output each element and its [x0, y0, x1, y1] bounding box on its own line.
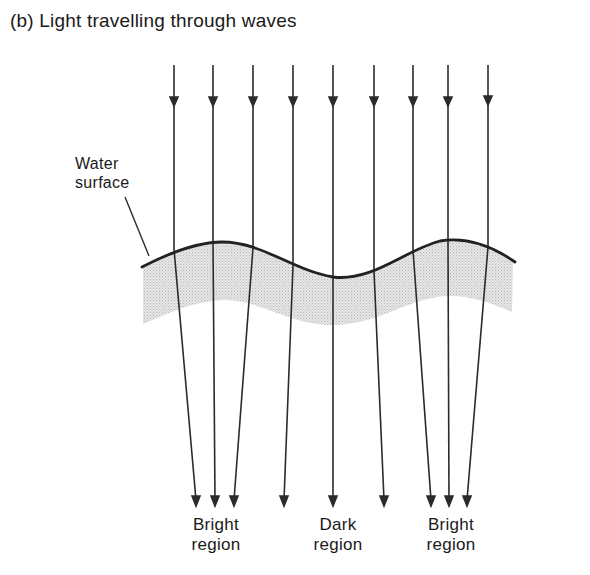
region-label-line1: Bright	[176, 515, 256, 535]
region-label-line1: Dark	[298, 515, 378, 535]
region-label-line2: region	[298, 535, 378, 555]
region-label-line2: region	[176, 535, 256, 555]
region-label-line2: region	[411, 535, 491, 555]
water-surface-label-line1: Water	[75, 154, 130, 173]
bright-region-label-left: Bright region	[176, 515, 256, 555]
water-surface-label-line2: surface	[75, 173, 130, 192]
region-label-line1: Bright	[411, 515, 491, 535]
light-refraction-diagram	[0, 0, 590, 575]
dark-region-label: Dark region	[298, 515, 378, 555]
surface-label-leader	[125, 197, 149, 256]
water-layer-shading	[143, 240, 513, 325]
water-surface-label: Water surface	[75, 154, 130, 192]
bright-region-label-right: Bright region	[411, 515, 491, 555]
